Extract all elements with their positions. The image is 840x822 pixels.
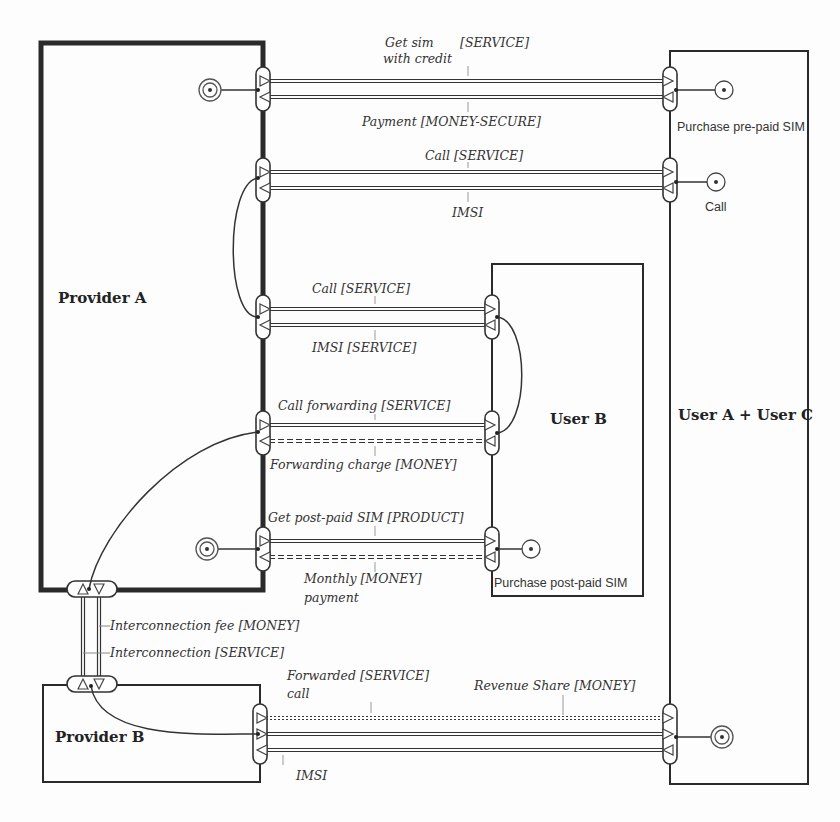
e3value-diagram: Provider AProvider BUser BUser A + User … — [0, 0, 840, 822]
actor-label: Provider A — [58, 289, 147, 307]
need-dot-icon — [722, 88, 726, 92]
connection-dot — [256, 176, 260, 180]
bullseye-dot-icon — [720, 735, 724, 739]
connection-dot — [495, 431, 499, 435]
need-label: Purchase pre-paid SIM — [677, 120, 805, 134]
dependency-path-userb-call-to-forward — [497, 317, 522, 433]
customer-need-purchase-prepaid: Purchase pre-paid SIM — [677, 81, 805, 134]
dependency-path-call-to-call — [233, 178, 258, 317]
connection-dot — [674, 88, 678, 92]
value-transfer-label: Get post-paid SIM [PRODUCT] — [268, 510, 464, 525]
connection-dot — [256, 732, 260, 736]
need-dot-icon — [529, 547, 533, 551]
value-exchange-prepaid-sim — [256, 67, 677, 111]
actor-label: User A + User C — [678, 406, 813, 424]
value-transfer-label: Monthly [MONEY] — [303, 571, 422, 586]
actor-box — [492, 264, 643, 596]
actor-user-b: User B — [492, 264, 643, 596]
value-transfer-label: Call [SERVICE] — [425, 148, 523, 163]
connection-dot — [256, 88, 260, 92]
connection-dot — [674, 180, 678, 184]
stimulus-start-a-postpaid — [196, 538, 218, 560]
value-exchange-call-forwarding — [256, 411, 499, 455]
diagram-svg: Provider AProvider BUser BUser A + User … — [0, 0, 840, 822]
connection-dot — [495, 315, 499, 319]
actor-label: Provider B — [55, 728, 144, 746]
value-transfer-label: IMSI [SERVICE] — [311, 340, 416, 355]
value-transfer-label: Forwarded [SERVICE] — [286, 668, 429, 683]
connection-dot — [89, 684, 93, 688]
value-transfer-label: Interconnection [SERVICE] — [109, 645, 284, 660]
customer-need-call: Call — [705, 173, 727, 214]
customer-need-purchase-postpaid: Purchase post-paid SIM — [494, 540, 627, 590]
stimulus-end-ac — [711, 726, 733, 748]
value-transfer-label: IMSI — [295, 768, 328, 783]
connection-dot — [87, 587, 91, 591]
dependency-path-interconnection-to-forwarded — [91, 686, 258, 734]
value-exchange-forwarded-call — [253, 704, 677, 764]
value-port — [256, 158, 270, 202]
value-exchange-call-b — [256, 295, 499, 339]
value-exchange-interconnection — [67, 581, 117, 692]
connection-dot — [256, 315, 260, 319]
value-transfer-label: with credit — [383, 51, 453, 66]
value-transfer-label: Forwarding charge [MONEY] — [269, 457, 457, 472]
value-transfer-label: Revenue Share [MONEY] — [473, 678, 635, 693]
need-label: Call — [705, 200, 727, 214]
connection-dot — [256, 430, 260, 434]
value-transfer-label: Call [SERVICE] — [312, 281, 410, 296]
value-transfer-label: payment — [304, 590, 360, 605]
value-transfer-label: [SERVICE] — [460, 35, 529, 50]
actor-provider-a: Provider A — [41, 43, 263, 590]
value-transfer-label: IMSI — [451, 205, 484, 220]
actor-user-ac: User A + User C — [670, 51, 813, 784]
stimulus-start-a-prepaid — [199, 79, 221, 101]
connection-dot — [674, 735, 678, 739]
actor-label: User B — [550, 410, 607, 428]
value-port — [663, 158, 677, 202]
need-dot-icon — [714, 180, 718, 184]
value-transfer-label: call — [287, 686, 309, 701]
value-port — [67, 581, 117, 597]
value-transfer-label: Interconnection fee [MONEY] — [109, 618, 300, 633]
value-exchange-postpaid-sim — [256, 527, 499, 571]
need-label: Purchase post-paid SIM — [494, 576, 627, 590]
value-transfer-label: Payment [MONEY-SECURE] — [361, 114, 541, 129]
dependency-path-forward-to-interconnection — [89, 432, 258, 589]
labels-layer: Get sim[SERVICE]with creditPayment [MONE… — [109, 35, 635, 783]
value-transfer-label: Call forwarding [SERVICE] — [278, 398, 450, 413]
bullseye-dot-icon — [208, 88, 212, 92]
value-transfer-label: Get sim — [385, 35, 434, 50]
bullseye-dot-icon — [205, 547, 209, 551]
value-exchange-call-a — [256, 158, 677, 202]
actor-box — [41, 43, 263, 590]
connection-dot — [495, 547, 499, 551]
connection-dot — [256, 547, 260, 551]
